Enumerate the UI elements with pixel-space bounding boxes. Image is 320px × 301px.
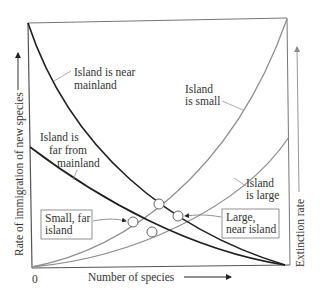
label-near-mainland: Island is near mainland (54, 66, 135, 91)
equilibrium-small-far (128, 217, 138, 227)
y-axis-left: Rate of immigration of new species (13, 53, 26, 256)
svg-text:is small: is small (185, 95, 220, 107)
svg-text:Extinction rate: Extinction rate (294, 199, 306, 267)
svg-text:mainland: mainland (57, 157, 100, 169)
equilibrium-small-near (154, 199, 164, 209)
svg-text:Island is: Island is (40, 131, 79, 143)
equilibrium-large-far (147, 227, 157, 237)
label-island-small: Island is small (185, 83, 243, 110)
x-axis: 0 Number of species (32, 271, 231, 285)
svg-text:Island: Island (185, 83, 213, 95)
svg-text:0: 0 (32, 273, 38, 285)
label-island-large: Island is large (234, 177, 279, 202)
svg-text:mainland: mainland (74, 79, 117, 91)
svg-text:Island is near: Island is near (74, 66, 135, 78)
equilibrium-large-near (173, 211, 183, 221)
label-large-near-island: Large, near island (185, 209, 279, 238)
svg-text:Rate of immigration of new spe: Rate of immigration of new species (13, 92, 26, 256)
svg-text:near island: near island (226, 223, 276, 235)
svg-text:Number of species: Number of species (88, 271, 175, 284)
svg-text:island: island (45, 224, 73, 236)
svg-text:far from: far from (49, 144, 87, 156)
svg-text:Island: Island (246, 177, 274, 189)
label-small-far-island: Small, far island (41, 210, 126, 239)
svg-text:is large: is large (246, 189, 279, 202)
island-biogeography-chart: Island is near mainland Island is far fr… (0, 0, 320, 301)
y-axis-right: Extinction rate (294, 47, 306, 267)
